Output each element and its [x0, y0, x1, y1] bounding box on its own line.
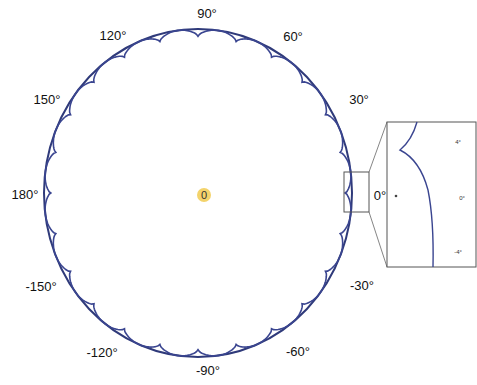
connector-line-bottom [369, 212, 387, 267]
tick-label-30: 30° [349, 92, 369, 107]
tick-label-0: 0° [374, 188, 386, 203]
tick-label-neg150: -150° [25, 279, 56, 294]
tick-label-neg120: -120° [86, 345, 117, 360]
inset-tick-neg4: -4° [454, 249, 462, 255]
tick-label-120: 120° [100, 28, 127, 43]
connector-line-top [369, 122, 387, 172]
tick-label-180: 180° [12, 187, 39, 202]
inset-tick-0: 0° [459, 195, 465, 201]
origin-marker: 0 [197, 188, 211, 202]
tick-label-neg30: -30° [350, 278, 374, 293]
tick-label-neg90: -90° [196, 363, 220, 378]
tick-label-neg60: -60° [286, 344, 310, 359]
tick-label-150: 150° [34, 92, 61, 107]
polar-plot [0, 0, 477, 385]
tick-label-60: 60° [283, 29, 303, 44]
inset-marker [395, 195, 398, 198]
tick-label-90: 90° [197, 6, 217, 21]
inset-tick-4: 4° [455, 139, 461, 145]
zoom-region-box [344, 172, 369, 212]
